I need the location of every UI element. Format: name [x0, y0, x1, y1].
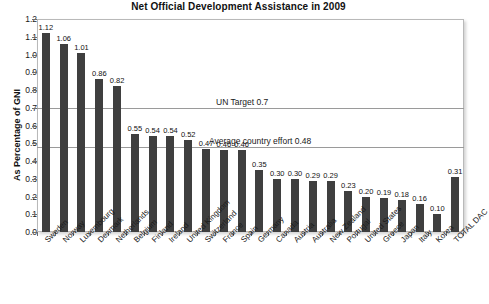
bar-value-label: 0.31 [448, 167, 463, 176]
bar-value-label: 1.12 [39, 23, 54, 32]
bar [60, 44, 68, 232]
bar-value-label: 0.29 [305, 171, 320, 180]
y-axis: 0.00.10.20.30.40.50.60.70.80.91.01.11.2 [0, 19, 37, 232]
bar-value-label: 0.55 [128, 124, 143, 133]
bar-value-label: 0.82 [110, 76, 125, 85]
bar-value-label: 0.35 [252, 160, 267, 169]
bar [113, 86, 121, 232]
bar [451, 177, 459, 232]
bar-value-label: 0.52 [181, 130, 196, 139]
bar [166, 136, 174, 232]
bar [95, 79, 103, 232]
bar-value-label: 0.18 [394, 190, 409, 199]
bar-value-label: 0.46 [234, 140, 249, 149]
x-axis-labels: SwedenNorwayLuxembourgDenmarkNetherlands… [0, 236, 477, 304]
bar-value-label: 0.19 [377, 188, 392, 197]
bar-value-label: 1.01 [74, 43, 89, 52]
plot-area: UN Target 0.7Average country effort 0.48… [37, 19, 464, 232]
bar-value-label: 0.10 [430, 204, 445, 213]
bar [77, 53, 85, 232]
bar-value-label: 1.06 [56, 34, 71, 43]
bar [184, 140, 192, 232]
bar-value-label: 0.29 [323, 171, 338, 180]
bar-value-label: 0.47 [199, 139, 214, 148]
bar-value-label: 0.23 [341, 181, 356, 190]
bar-value-label: 0.20 [359, 187, 374, 196]
bar [255, 170, 263, 232]
bar-value-label: 0.86 [92, 69, 107, 78]
bar-value-label: 0.30 [270, 169, 285, 178]
bar-value-label: 0.46 [217, 140, 232, 149]
bar [42, 33, 50, 232]
bar-value-label: 0.54 [145, 126, 160, 135]
bar-value-label: 0.54 [163, 126, 178, 135]
bar-value-label: 0.30 [288, 169, 303, 178]
bar [433, 214, 441, 232]
reference-line-label: UN Target 0.7 [216, 97, 268, 107]
bar-value-label: 0.16 [412, 194, 427, 203]
chart-title: Net Official Development Assistance in 2… [0, 1, 477, 12]
